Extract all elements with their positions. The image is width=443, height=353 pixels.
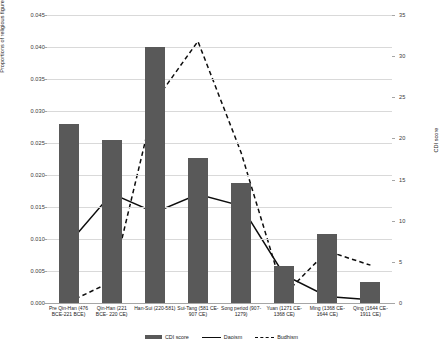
x-axis-tick-label: Yuan (1271 CE-1368 CE) [263,305,306,318]
gridline [47,15,392,16]
y-axis-left-tick-label: 0.040 [5,44,45,50]
y-axis-right-tick-mark [392,56,395,57]
chart-legend: CDI scoreDaoismBudhism [0,334,443,340]
legend-item[interactable]: Budhism [255,334,298,340]
x-axis-tick-label: Sui-Tang (581 CE-907 CE) [176,305,219,318]
y-axis-right-tick-mark [392,180,395,181]
bar [145,47,165,303]
y-axis-right-tick-label: 15 [399,177,429,183]
y-axis-left-tick-label: 0.000 [5,300,45,306]
legend-item-label: Budhism [277,334,298,340]
gridline [47,143,392,144]
y-axis-right-tick-label: 25 [399,94,429,100]
y-axis-right-tick-mark [392,303,395,304]
gridline [47,175,392,176]
y-axis-left-tick-label: 0.035 [5,76,45,82]
legend-item-label: Daoism [224,334,242,340]
y-axis-left-tick-label: 0.010 [5,236,45,242]
gridline [47,79,392,80]
x-axis-tick-label: Song period (907-1279) [220,305,263,318]
bar [59,124,79,303]
y-axis-right-tick-label: 35 [399,12,429,18]
y-axis-right-tick-label: 30 [399,53,429,59]
bar [360,282,380,303]
bar [317,234,337,303]
y-axis-left-tick-label: 0.045 [5,12,45,18]
plot-area [47,15,392,303]
y-axis-right-tick-mark [392,138,395,139]
gridline [47,271,392,272]
gridline [47,207,392,208]
y-axis-right-tick-label: 0 [399,300,429,306]
bar-swatch-icon [145,335,162,340]
x-axis-tick-label: Ming (1368 CE-1644 CE) [306,305,349,318]
y-axis-right-tick-mark [392,221,395,222]
y-axis-right-tick-mark [392,97,395,98]
y-axis-right-tick-label: 5 [399,259,429,265]
legend-item-label: CDI score [165,334,189,340]
y-axis-left-tick-label: 0.030 [5,108,45,114]
legend-item[interactable]: Daoism [202,334,242,340]
y-axis-right-tick-label: 20 [399,135,429,141]
gridline [47,47,392,48]
y-axis-left-tick-label: 0.015 [5,204,45,210]
x-axis-tick-label: Pre Qin-Han (476 BCE-221 BCE) [47,305,90,318]
chart-container: Proportions of religious figures CDI sco… [0,0,443,353]
y-axis-left-tick-label: 0.020 [5,172,45,178]
y-axis-right-title: CDI score [433,80,439,200]
gridline [47,303,392,304]
gridline [47,111,392,112]
y-axis-right-tick-mark [392,262,395,263]
y-axis-left-tick-label: 0.005 [5,268,45,274]
y-axis-left-tick-label: 0.025 [5,140,45,146]
gridline [47,239,392,240]
solid-line-swatch-icon [202,337,221,338]
bar [102,140,122,303]
dashed-line-swatch-icon [255,337,274,338]
y-axis-right-tick-label: 10 [399,218,429,224]
x-axis-tick-label: Qin-Han (221 BCE- 220 CE) [90,305,133,318]
x-axis-tick-label: Han-Sui (220-581) [133,305,176,311]
y-axis-right-tick-mark [392,15,395,16]
bar [231,183,251,303]
legend-item[interactable]: CDI score [145,334,189,340]
x-axis-labels: Pre Qin-Han (476 BCE-221 BCE)Qin-Han (22… [47,305,392,331]
line-series-overlay [47,15,392,303]
bar [274,266,294,303]
x-axis-tick-label: Qing (1644 CE-1911 CE) [349,305,392,318]
bar [188,158,208,303]
